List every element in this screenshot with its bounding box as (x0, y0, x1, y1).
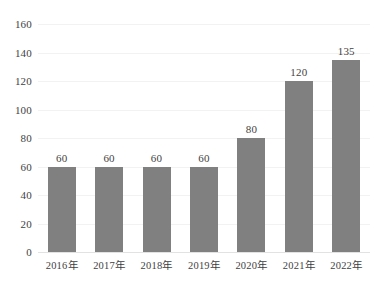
bar-value-label: 60 (198, 153, 209, 164)
bar-group[interactable]: 60 (38, 24, 85, 252)
bar-group[interactable]: 60 (133, 24, 180, 252)
y-axis-tick-label: 80 (0, 133, 32, 144)
y-axis-tick-label: 100 (0, 105, 32, 116)
y-axis-tick-label: 60 (0, 162, 32, 173)
bar-group[interactable]: 120 (275, 24, 322, 252)
bar-value-label: 60 (151, 153, 162, 164)
bar[interactable] (237, 138, 265, 252)
x-axis-tick-label: 2018年 (133, 260, 180, 272)
bar-group[interactable]: 80 (228, 24, 275, 252)
y-axis-tick-label: 40 (0, 190, 32, 201)
bar-value-label: 60 (56, 153, 67, 164)
x-axis-tick-label: 2021年 (275, 260, 322, 272)
bar-value-label: 120 (290, 67, 307, 78)
y-axis-tick-label: 0 (0, 247, 32, 258)
y-axis-tick-label: 140 (0, 48, 32, 59)
bar-group[interactable]: 60 (180, 24, 227, 252)
x-axis-tick-label: 2017年 (85, 260, 132, 272)
y-axis-tick-label: 160 (0, 19, 32, 30)
y-axis-tick-label: 120 (0, 76, 32, 87)
x-axis-tick-label: 2016年 (38, 260, 85, 272)
bar[interactable] (95, 167, 123, 253)
bar-value-label: 60 (103, 153, 114, 164)
x-axis-tick-label: 2020年 (228, 260, 275, 272)
bar[interactable] (143, 167, 171, 253)
x-axis-tick-label: 2019年 (180, 260, 227, 272)
bar-chart: 020406080100120140160 6060606080120135 2… (0, 0, 379, 295)
bar-value-label: 135 (338, 46, 355, 57)
bar-group[interactable]: 135 (323, 24, 370, 252)
bar[interactable] (48, 167, 76, 253)
x-axis: 2016年2017年2018年2019年2020年2021年2022年 (38, 260, 370, 280)
bars-layer: 6060606080120135 (38, 24, 370, 252)
x-axis-tick-label: 2022年 (323, 260, 370, 272)
y-axis-tick-label: 20 (0, 219, 32, 230)
bar[interactable] (285, 81, 313, 252)
bar-value-label: 80 (246, 124, 257, 135)
axis-baseline (38, 252, 370, 253)
bar[interactable] (190, 167, 218, 253)
bar[interactable] (332, 60, 360, 252)
bar-group[interactable]: 60 (85, 24, 132, 252)
